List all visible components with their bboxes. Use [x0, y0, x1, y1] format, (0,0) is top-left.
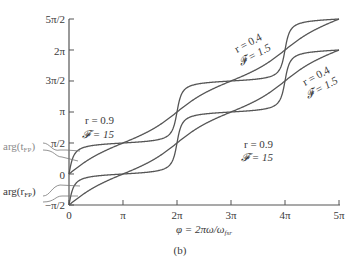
y-tick-label: −π/2 — [45, 199, 65, 211]
annotation-F15-lower: 𝓕 = 15 — [241, 151, 273, 163]
y-tick-label: π — [59, 105, 65, 117]
annotation-r09-upper: r = 0.9 — [85, 114, 115, 126]
x-tick-label: 0 — [66, 209, 72, 221]
y-tick-label: 3π/2 — [45, 74, 65, 86]
annotation-F15-upper: 𝓕 = 15 — [82, 128, 114, 140]
x-tick-label: 3π — [225, 209, 237, 221]
y-tick-label: π/2 — [51, 137, 65, 149]
axes — [69, 19, 340, 205]
curve-arg-t_FP-r0.9 — [69, 19, 339, 174]
x-axis-label: φ = 2πω/ωfsr — [176, 223, 232, 237]
curves — [69, 19, 339, 205]
panel-label: (b) — [174, 244, 187, 257]
x-tick-label: π — [120, 209, 126, 221]
phase-chart: 5π/2 2π 3π/2 π π/2 0 −π/2 0 π 2π 3π 4π 5… — [0, 0, 357, 265]
x-tick-label: 5π — [333, 209, 345, 221]
arg-t-label: arg(tFP) — [3, 140, 35, 154]
x-tick-label: 2π — [171, 209, 183, 221]
curve-arg-t_FP-r0.4 — [69, 19, 339, 174]
annotation-r09-lower: r = 0.9 — [244, 138, 274, 150]
y-tick-labels: 5π/2 2π 3π/2 π π/2 0 −π/2 — [45, 13, 66, 211]
arg-r-label: arg(rFP) — [3, 185, 36, 199]
y-tick-label: 0 — [60, 169, 66, 181]
y-ticks — [69, 19, 74, 205]
y-tick-label: 5π/2 — [45, 13, 65, 25]
x-tick-labels: 0 π 2π 3π 4π 5π — [66, 209, 345, 221]
y-tick-label: 2π — [54, 45, 66, 57]
x-tick-label: 4π — [279, 209, 291, 221]
x-ticks — [69, 200, 339, 205]
